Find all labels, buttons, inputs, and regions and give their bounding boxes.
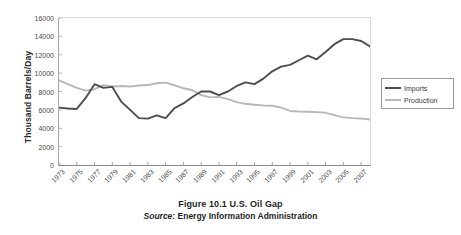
figure-source: Source: Energy Information Administratio… — [0, 210, 461, 222]
chart-legend: Imports Production — [381, 78, 454, 109]
figure-title: Figure 10.1 U.S. Oil Gap — [0, 198, 461, 210]
plot-area — [58, 17, 371, 166]
source-text: Energy Information Administration — [175, 211, 317, 221]
series-line-imports — [59, 39, 370, 118]
legend-label-imports: Imports — [404, 85, 427, 92]
legend-item-imports: Imports — [385, 82, 451, 94]
figure-container: Thousand Barrels/Day 0200040006000800010… — [0, 0, 461, 235]
source-label: Source: — [144, 211, 176, 221]
legend-label-production: Production — [404, 97, 437, 104]
y-tick-label: 8000 — [18, 88, 54, 95]
y-tick-label: 4000 — [18, 125, 54, 132]
y-tick-label: 12000 — [18, 51, 54, 58]
y-tick-label: 6000 — [18, 106, 54, 113]
legend-swatch-imports — [385, 87, 401, 89]
y-tick-label: 10000 — [18, 70, 54, 77]
chart-lines — [59, 18, 370, 165]
y-tick-label: 14000 — [18, 33, 54, 40]
y-tick-label: 16000 — [18, 15, 54, 22]
figure-caption: Figure 10.1 U.S. Oil Gap Source: Energy … — [0, 198, 461, 222]
legend-item-production: Production — [385, 94, 451, 106]
legend-swatch-production — [385, 99, 401, 101]
series-line-production — [59, 80, 370, 119]
y-tick-label: 2000 — [18, 143, 54, 150]
